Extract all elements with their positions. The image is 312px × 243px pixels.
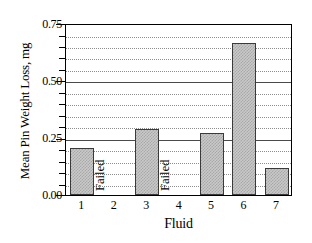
bar-fluid-5[interactable]	[200, 133, 224, 195]
plot-area: Failed Failed	[65, 24, 292, 196]
x-tick-label-5: 5	[198, 198, 224, 213]
bar-chart-figure: Mean Pin Weight Loss, mg 0.75 0.50 0.25 …	[0, 0, 312, 243]
x-tick-label-2: 2	[101, 198, 127, 213]
x-axis-title: Fluid	[65, 216, 292, 232]
gridline-070	[66, 37, 291, 38]
bar-fluid-7[interactable]	[265, 168, 289, 196]
gridline-045	[66, 94, 291, 95]
gridline-055	[66, 71, 291, 72]
x-tick-label-7: 7	[263, 198, 289, 213]
gridline-065	[66, 48, 291, 49]
y-tick-mark-050	[56, 81, 65, 82]
gridline-060	[66, 59, 291, 60]
annotation-failed-fluid-4: Failed	[157, 121, 173, 191]
x-axis-tick-labels: 1 2 3 4 5 6 7	[65, 198, 292, 216]
gridline-050	[66, 82, 291, 83]
annotation-failed-fluid-2: Failed	[92, 121, 108, 191]
gridline-035	[66, 117, 291, 118]
x-tick-label-4: 4	[166, 198, 192, 213]
gridline-040	[66, 105, 291, 106]
y-tick-mark-000	[56, 195, 65, 196]
x-tick-label-6: 6	[230, 198, 256, 213]
y-tick-mark-075	[56, 24, 65, 25]
bar-fluid-6[interactable]	[232, 43, 256, 196]
x-tick-label-1: 1	[68, 198, 94, 213]
y-axis-tick-labels: 0.75 0.50 0.25 0.00	[24, 0, 62, 243]
bar-fluid-1[interactable]	[70, 148, 94, 195]
x-tick-label-3: 3	[133, 198, 159, 213]
y-tick-mark-025	[56, 139, 65, 140]
bar-fluid-3[interactable]	[135, 129, 159, 196]
